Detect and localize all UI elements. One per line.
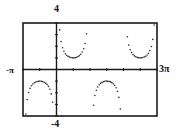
data-point bbox=[26, 99, 28, 101]
data-point bbox=[108, 81, 110, 83]
data-point bbox=[62, 47, 64, 49]
data-point bbox=[138, 57, 140, 59]
data-point bbox=[141, 57, 143, 59]
data-point bbox=[59, 29, 61, 31]
data-point bbox=[86, 33, 88, 35]
data-point bbox=[60, 41, 62, 43]
y-max-label: 4 bbox=[54, 4, 59, 14]
data-point bbox=[52, 101, 54, 103]
data-point bbox=[81, 51, 83, 53]
data-point bbox=[77, 56, 79, 58]
data-point bbox=[49, 89, 51, 91]
data-point bbox=[111, 82, 113, 84]
data-point bbox=[34, 82, 36, 84]
data-point bbox=[151, 46, 153, 48]
data-point bbox=[39, 80, 41, 82]
data-point bbox=[25, 113, 27, 115]
data-point bbox=[36, 81, 38, 83]
data-point bbox=[144, 56, 146, 58]
data-point bbox=[83, 48, 85, 50]
data-point bbox=[93, 105, 95, 107]
data-point bbox=[118, 97, 120, 99]
data-point bbox=[104, 81, 106, 83]
data-point bbox=[129, 49, 131, 51]
data-point bbox=[38, 80, 40, 82]
x-min-label: -π bbox=[6, 65, 14, 75]
data-point bbox=[131, 52, 133, 54]
data-point bbox=[96, 89, 98, 91]
data-point bbox=[66, 55, 68, 57]
y-min-label: -4 bbox=[51, 119, 59, 129]
data-point bbox=[67, 56, 69, 58]
data-point bbox=[80, 53, 82, 55]
data-point bbox=[115, 87, 117, 89]
data-point bbox=[110, 81, 112, 83]
data-point bbox=[43, 81, 45, 83]
data-point bbox=[103, 81, 105, 83]
data-point bbox=[28, 92, 30, 94]
data-point bbox=[152, 39, 154, 41]
data-point bbox=[117, 91, 119, 93]
data-point bbox=[31, 85, 33, 87]
data-point bbox=[45, 82, 47, 84]
data-point bbox=[107, 80, 109, 82]
data-point bbox=[105, 80, 107, 82]
data-point bbox=[69, 56, 71, 58]
data-point bbox=[73, 57, 75, 59]
data-point bbox=[50, 93, 52, 95]
data-point bbox=[100, 83, 102, 85]
data-point bbox=[48, 86, 50, 88]
data-point bbox=[132, 54, 134, 56]
data-point bbox=[84, 43, 86, 45]
data-point bbox=[146, 54, 148, 56]
data-point bbox=[32, 83, 34, 85]
data-point bbox=[76, 57, 78, 59]
data-point bbox=[94, 95, 96, 97]
data-point bbox=[142, 57, 144, 59]
plot-canvas bbox=[0, 0, 176, 130]
data-point bbox=[97, 86, 99, 88]
data-point bbox=[135, 56, 137, 58]
data-point bbox=[149, 50, 151, 52]
data-point bbox=[35, 81, 37, 83]
data-point bbox=[63, 51, 65, 53]
data-point bbox=[79, 55, 81, 57]
data-point bbox=[46, 84, 48, 86]
data-point bbox=[74, 57, 76, 59]
data-point bbox=[98, 84, 100, 86]
data-point bbox=[145, 55, 147, 57]
data-point bbox=[70, 57, 72, 59]
data-point bbox=[42, 81, 44, 83]
x-max-label: 3π bbox=[159, 64, 169, 74]
data-point bbox=[41, 81, 43, 83]
data-point bbox=[101, 82, 103, 84]
data-point bbox=[148, 52, 150, 54]
data-point bbox=[113, 83, 115, 85]
data-point bbox=[127, 36, 129, 38]
data-point bbox=[128, 44, 130, 46]
data-point bbox=[139, 57, 141, 59]
data-point bbox=[134, 55, 136, 57]
data-point bbox=[29, 88, 31, 90]
data-point bbox=[120, 108, 122, 110]
data-point bbox=[137, 57, 139, 59]
data-point bbox=[153, 24, 155, 26]
data-point bbox=[65, 53, 67, 55]
data-point bbox=[114, 85, 116, 87]
data-point bbox=[72, 57, 74, 59]
